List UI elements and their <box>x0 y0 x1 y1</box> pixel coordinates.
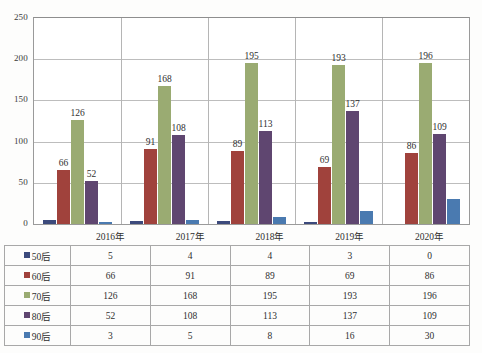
table-cell: 5 <box>150 326 230 346</box>
y-tick-label: 50 <box>0 178 28 187</box>
bar <box>186 220 199 224</box>
bar-slot: 137 <box>346 18 359 224</box>
bar <box>318 167 331 224</box>
y-tick-label: 150 <box>0 95 28 104</box>
series-name: 90后 <box>32 332 52 342</box>
table-cell: 3 <box>310 246 390 266</box>
bar-value-label: 126 <box>70 108 84 118</box>
bar-slot <box>391 18 404 224</box>
bar-value-label: 86 <box>407 141 417 151</box>
bar-value-label: 69 <box>320 155 330 165</box>
bars: 91168108 <box>121 18 208 224</box>
data-table: 2016年2017年2018年2019年2020年50后5443060后6691… <box>4 225 470 346</box>
bar <box>304 222 317 224</box>
table-cell: 91 <box>150 266 230 286</box>
table-cell: 16 <box>310 326 390 346</box>
bar-slot: 108 <box>172 18 185 224</box>
bar <box>172 135 185 224</box>
bar-slot <box>130 18 143 224</box>
bar-chart: 050100150200250 661265291168108891951136… <box>0 0 482 240</box>
bar-value-label: 91 <box>146 137 156 147</box>
bar <box>217 221 230 224</box>
bar-groups: 661265291168108891951136919313786196109 <box>34 18 469 224</box>
bar-value-label: 66 <box>59 158 69 168</box>
bar-slot: 52 <box>85 18 98 224</box>
legend-entry: 70后 <box>5 286 71 306</box>
table-row: 70后126168195193196 <box>5 286 470 306</box>
series-name: 60后 <box>32 272 52 282</box>
legend-swatch-icon <box>24 272 30 278</box>
bar-slot <box>447 18 460 224</box>
table-cell: 89 <box>230 266 310 286</box>
bar-slot <box>304 18 317 224</box>
table-cell: 66 <box>71 266 151 286</box>
bar-slot <box>360 18 373 224</box>
y-tick-label: 200 <box>0 54 28 63</box>
table-cell: 126 <box>71 286 151 306</box>
bar <box>158 86 171 224</box>
bar-group: 86196109 <box>382 18 469 224</box>
table-cell: 113 <box>230 306 310 326</box>
table-row: 60后6691896986 <box>5 266 470 286</box>
series-name: 80后 <box>32 312 52 322</box>
table-cell: 5 <box>71 246 151 266</box>
bar-slot: 168 <box>158 18 171 224</box>
bars: 6612652 <box>34 18 121 224</box>
bar-value-label: 52 <box>87 169 97 179</box>
bar-group: 6612652 <box>34 18 121 224</box>
bar-slot <box>186 18 199 224</box>
table-row: 80后52108113137109 <box>5 306 470 326</box>
table-column-header: 2017年 <box>150 226 230 246</box>
table-column-header: 2018年 <box>230 226 310 246</box>
table-cell: 4 <box>230 246 310 266</box>
table-column-header: 2020年 <box>390 226 470 246</box>
bar <box>43 220 56 224</box>
table-cell: 196 <box>390 286 470 306</box>
legend-entry: 80后 <box>5 306 71 326</box>
bar-value-label: 113 <box>259 119 273 129</box>
bar-slot: 195 <box>245 18 258 224</box>
bar <box>245 63 258 224</box>
y-axis: 050100150200250 <box>0 0 33 240</box>
table-cell: 108 <box>150 306 230 326</box>
bar-slot: 113 <box>259 18 272 224</box>
bars: 86196109 <box>382 18 469 224</box>
table-cell: 109 <box>390 306 470 326</box>
bar <box>85 181 98 224</box>
bar-slot: 91 <box>144 18 157 224</box>
bar-value-label: 109 <box>432 122 446 132</box>
legend-entry: 50后 <box>5 246 71 266</box>
bar <box>433 134 446 224</box>
bar <box>99 222 112 224</box>
table-cell: 69 <box>310 266 390 286</box>
bar-value-label: 108 <box>171 123 185 133</box>
bar <box>71 120 84 224</box>
table-cell: 195 <box>230 286 310 306</box>
table-corner-cell <box>5 226 71 246</box>
bar-slot: 109 <box>433 18 446 224</box>
bar-slot <box>43 18 56 224</box>
table-column-header: 2019年 <box>310 226 390 246</box>
bar <box>360 211 373 224</box>
bar-slot: 89 <box>231 18 244 224</box>
bar-slot: 69 <box>318 18 331 224</box>
bar-group: 69193137 <box>295 18 382 224</box>
table-cell: 3 <box>71 326 151 346</box>
table-cell: 0 <box>390 246 470 266</box>
bar-value-label: 195 <box>244 51 258 61</box>
y-tick-label: 250 <box>0 13 28 22</box>
bar <box>447 199 460 224</box>
legend-swatch-icon <box>24 332 30 338</box>
table-cell: 4 <box>150 246 230 266</box>
bar <box>273 217 286 224</box>
table-cell: 86 <box>390 266 470 286</box>
legend-swatch-icon <box>24 252 30 258</box>
bar <box>405 153 418 224</box>
table-column-header: 2016年 <box>71 226 151 246</box>
bar <box>332 65 345 224</box>
table-header-row: 2016年2017年2018年2019年2020年 <box>5 226 470 246</box>
bar <box>419 63 432 225</box>
bar-value-label: 89 <box>233 139 243 149</box>
bar <box>259 131 272 224</box>
bar <box>57 170 70 224</box>
